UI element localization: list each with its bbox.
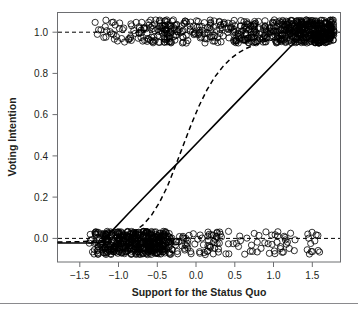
x-tick-label-1.5: 1.5 (305, 270, 319, 281)
y-tick-label-1.0: 1.0 (34, 27, 48, 38)
x-tick-label-1.0: 1.0 (267, 270, 281, 281)
x-tick-label--0.5: −0.5 (147, 270, 167, 281)
y-tick-label-0.2: 0.2 (34, 192, 48, 203)
figure-root: 1.0 0.8 0.6 0.4 0.2 0.0 −1.5 −1.0 −0.5 0… (0, 0, 358, 314)
x-tick-label-0.5: 0.5 (228, 270, 242, 281)
scatter-plot-figure: 1.0 0.8 0.6 0.4 0.2 0.0 −1.5 −1.0 −0.5 0… (0, 0, 358, 314)
figure-background (0, 0, 358, 314)
y-tick-label-0.6: 0.6 (34, 109, 48, 120)
x-tick-label--1.0: −1.0 (109, 270, 129, 281)
y-axis-title: Voting Intention (6, 97, 18, 176)
x-tick-label-0.0: 0.0 (189, 270, 203, 281)
y-tick-label-0.8: 0.8 (34, 68, 48, 79)
y-tick-label-0.4: 0.4 (34, 151, 48, 162)
x-tick-label--1.5: −1.5 (70, 270, 90, 281)
y-tick-label-0.0: 0.0 (34, 233, 48, 244)
x-axis-title: Support for the Status Quo (132, 286, 267, 298)
